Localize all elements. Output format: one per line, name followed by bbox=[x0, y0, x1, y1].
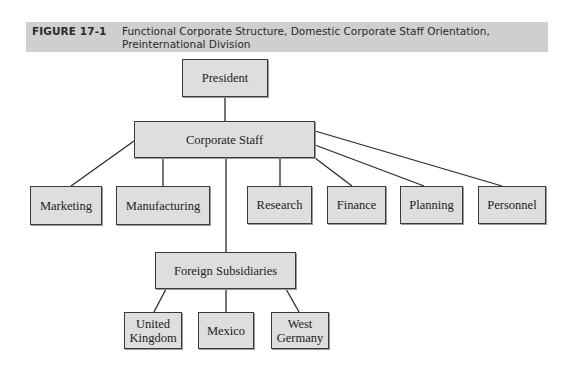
node-label: Finance bbox=[337, 198, 377, 212]
node-west-germany: West Germany bbox=[271, 312, 329, 349]
node-label: Mexico bbox=[207, 324, 245, 338]
edge-corporate-staff-personnel bbox=[315, 131, 502, 186]
edge-foreign-subsidiaries-west-germany bbox=[286, 289, 299, 312]
node-label: President bbox=[202, 71, 249, 85]
node-personnel: Personnel bbox=[478, 186, 546, 224]
edge-corporate-staff-finance bbox=[315, 158, 352, 186]
node-mexico: Mexico bbox=[198, 312, 254, 349]
node-label: Planning bbox=[409, 198, 453, 212]
edge-corporate-staff-marketing bbox=[71, 141, 134, 186]
node-label: Research bbox=[257, 198, 303, 212]
node-label: Corporate Staff bbox=[186, 133, 263, 147]
node-manufacturing: Manufacturing bbox=[116, 186, 210, 225]
node-label: Personnel bbox=[487, 198, 536, 212]
edge-corporate-staff-planning bbox=[315, 145, 424, 186]
node-label: West Germany bbox=[277, 317, 324, 345]
node-planning: Planning bbox=[400, 186, 463, 224]
node-label: Marketing bbox=[40, 199, 92, 213]
node-label: Foreign Subsidiaries bbox=[174, 264, 277, 278]
node-united-kingdom: United Kingdom bbox=[124, 312, 182, 349]
node-foreign-subsidiaries: Foreign Subsidiaries bbox=[155, 252, 296, 289]
node-label: Manufacturing bbox=[126, 199, 200, 213]
node-research: Research bbox=[247, 186, 312, 224]
node-corporate-staff: Corporate Staff bbox=[134, 121, 315, 158]
node-marketing: Marketing bbox=[30, 186, 102, 225]
edge-foreign-subsidiaries-uk bbox=[154, 289, 166, 312]
node-label: United Kingdom bbox=[129, 317, 176, 345]
node-finance: Finance bbox=[327, 186, 386, 224]
node-president: President bbox=[182, 59, 268, 97]
